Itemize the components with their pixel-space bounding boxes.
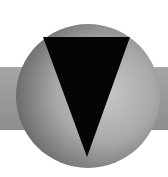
emblem-logo bbox=[0, 0, 168, 177]
